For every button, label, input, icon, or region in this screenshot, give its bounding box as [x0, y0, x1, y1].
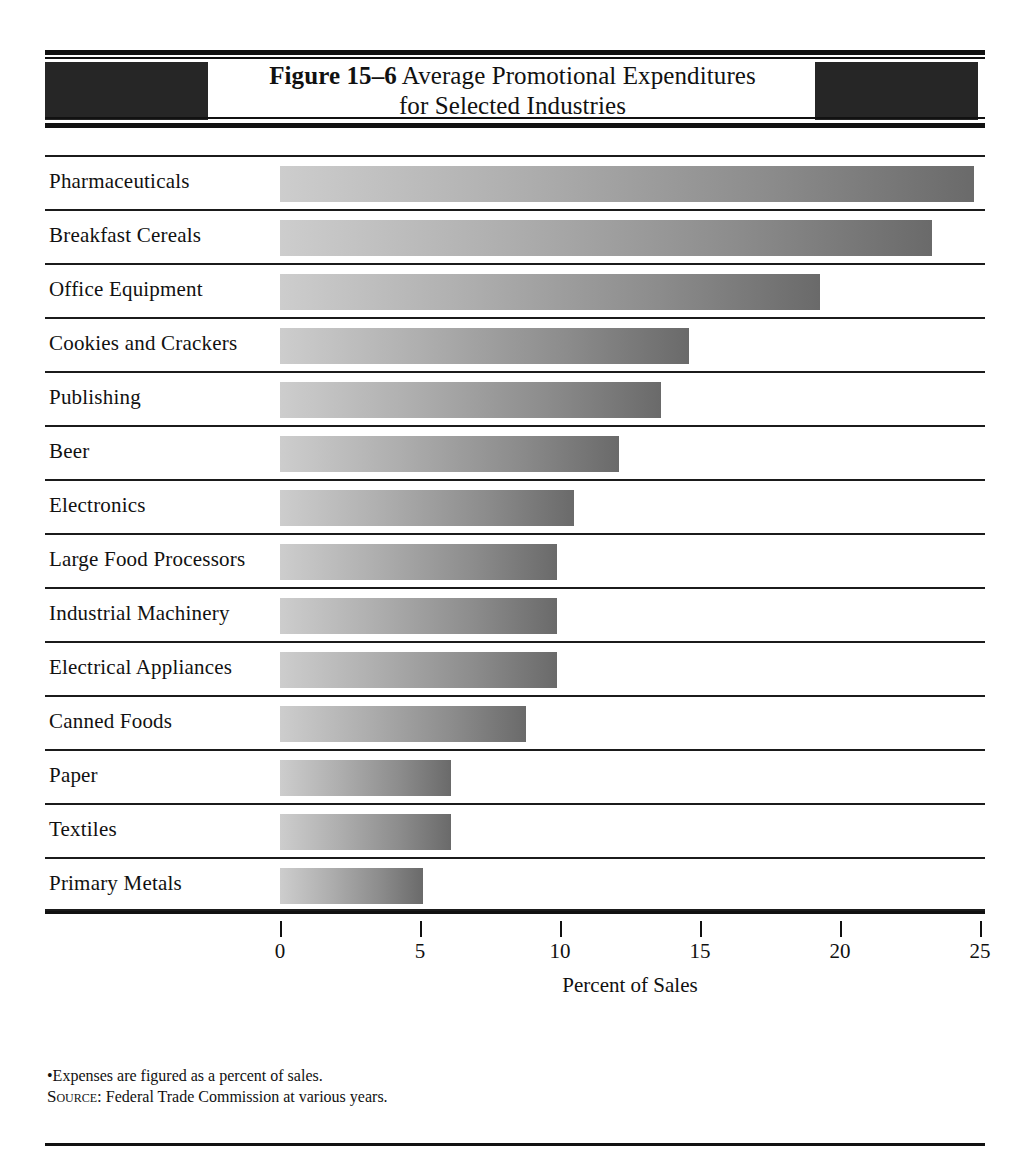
header-block-left	[45, 62, 208, 120]
header-top-rule	[45, 50, 985, 55]
chart-row: Beer	[45, 425, 985, 479]
category-label: Textiles	[49, 817, 117, 842]
chart-row: Electronics	[45, 479, 985, 533]
chart-row: Electrical Appliances	[45, 641, 985, 695]
chart-row: Large Food Processors	[45, 533, 985, 587]
category-label: Office Equipment	[49, 277, 203, 302]
x-axis-tick	[980, 921, 982, 937]
category-label: Industrial Machinery	[49, 601, 230, 626]
source-prefix: Source:	[47, 1087, 102, 1106]
x-axis-tick	[560, 921, 562, 937]
x-axis-tick	[700, 921, 702, 937]
bar	[280, 490, 574, 526]
header-block-right	[815, 62, 978, 120]
x-axis-tick-label: 0	[275, 939, 286, 964]
chart-row: Pharmaceuticals	[45, 155, 985, 209]
bar	[280, 328, 689, 364]
x-axis-tick-label: 20	[830, 939, 851, 964]
x-axis-tick-label: 5	[415, 939, 426, 964]
bar	[280, 220, 932, 256]
footnote-text: •Expenses are figured as a percent of sa…	[47, 1065, 977, 1086]
x-axis-tick-label: 10	[550, 939, 571, 964]
x-axis-tick	[280, 921, 282, 937]
chart-row: Canned Foods	[45, 695, 985, 749]
category-label: Breakfast Cereals	[49, 223, 201, 248]
category-label: Cookies and Crackers	[49, 331, 237, 356]
bar	[280, 598, 557, 634]
bar	[280, 706, 526, 742]
figure-title: Figure 15–6 Average Promotional Expendit…	[220, 61, 805, 121]
figure-title-line2: for Selected Industries	[399, 92, 626, 119]
chart-plot-area: PharmaceuticalsBreakfast CerealsOffice E…	[45, 155, 985, 989]
bar	[280, 814, 451, 850]
chart-row: Breakfast Cereals	[45, 209, 985, 263]
x-axis-tick-label: 25	[970, 939, 991, 964]
x-axis: Percent of Sales 0510152025	[45, 911, 985, 989]
chart-row: Industrial Machinery	[45, 587, 985, 641]
bar	[280, 274, 820, 310]
bar	[280, 382, 661, 418]
figure-number: Figure 15–6	[269, 62, 397, 89]
header-bottom-rule	[45, 123, 985, 128]
header-bottom-rule-thin	[45, 117, 985, 119]
chart-row: Publishing	[45, 371, 985, 425]
category-label: Canned Foods	[49, 709, 172, 734]
category-label: Electronics	[49, 493, 146, 518]
category-label: Publishing	[49, 385, 141, 410]
bar	[280, 652, 557, 688]
figure-title-line1: Average Promotional Expenditures	[402, 62, 756, 89]
x-axis-title: Percent of Sales	[280, 973, 980, 998]
x-axis-tick	[840, 921, 842, 937]
bar-rows: PharmaceuticalsBreakfast CerealsOffice E…	[45, 155, 985, 911]
source-line: Source: Federal Trade Commission at vari…	[47, 1086, 977, 1107]
x-axis-tick-label: 15	[690, 939, 711, 964]
category-label: Beer	[49, 439, 89, 464]
category-label: Pharmaceuticals	[49, 169, 190, 194]
category-label: Paper	[49, 763, 98, 788]
chart-row: Primary Metals	[45, 857, 985, 911]
figure-header: Figure 15–6 Average Promotional Expendit…	[45, 45, 985, 130]
category-label: Electrical Appliances	[49, 655, 232, 680]
chart-row: Textiles	[45, 803, 985, 857]
x-axis-line	[45, 911, 985, 914]
chart-row: Office Equipment	[45, 263, 985, 317]
category-label: Primary Metals	[49, 871, 182, 896]
header-top-rule-thin	[45, 57, 985, 59]
bar	[280, 166, 974, 202]
bar	[280, 760, 451, 796]
figure-footer-rule	[45, 1143, 985, 1146]
x-axis-tick	[420, 921, 422, 937]
bar	[280, 868, 423, 904]
chart-row: Paper	[45, 749, 985, 803]
bar	[280, 436, 619, 472]
bar	[280, 544, 557, 580]
source-text: Federal Trade Commission at various year…	[106, 1088, 388, 1105]
figure-container: Figure 15–6 Average Promotional Expendit…	[45, 45, 985, 1150]
category-label: Large Food Processors	[49, 547, 245, 572]
figure-notes: •Expenses are figured as a percent of sa…	[47, 1065, 977, 1107]
chart-row: Cookies and Crackers	[45, 317, 985, 371]
